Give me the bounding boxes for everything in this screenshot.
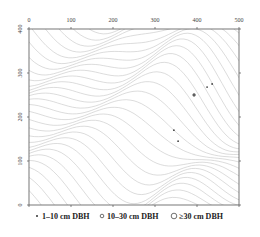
legend: 1–10 cm DBH10–30 cm DBH≥30 cm DBH [36, 212, 224, 221]
legend-label: 1–10 cm DBH [42, 212, 90, 221]
contour-line [19, 234, 249, 237]
contour-line [19, 107, 249, 165]
contour-line [19, 0, 249, 27]
x-tick-label: 100 [67, 17, 76, 23]
data-point [173, 129, 175, 131]
contour-lines [19, 0, 249, 237]
y-tick-label: 0 [17, 204, 23, 207]
contour-line [19, 144, 249, 207]
contour-line [19, 33, 249, 109]
x-tick-label: 500 [235, 17, 244, 23]
x-tick-label: 400 [193, 17, 202, 23]
contour-line [19, 62, 249, 145]
data-point [206, 86, 208, 88]
contour-line [19, 82, 249, 152]
contour-line [19, 228, 249, 237]
legend-label: ≥30 cm DBH [179, 212, 224, 221]
data-point [177, 140, 179, 142]
x-tick-label: 0 [28, 17, 31, 23]
legend-symbol [36, 215, 38, 217]
y-tick-label: 400 [17, 25, 23, 34]
data-point [193, 94, 196, 97]
contour-line [19, 0, 249, 59]
contour-line [19, 155, 249, 220]
contour-line [19, 138, 249, 203]
legend-symbol [171, 213, 177, 219]
contour-line [19, 182, 249, 237]
x-tick-label: 200 [109, 17, 118, 23]
y-tick-label: 300 [17, 69, 23, 78]
chart: 0100200300400500 0100200300400 1–10 cm D… [0, 0, 260, 237]
y-tick-label: 200 [17, 113, 23, 122]
contour-line [19, 0, 249, 46]
contour-line [19, 0, 249, 40]
legend-label: 10–30 cm DBH [107, 212, 159, 221]
contour-line [19, 149, 249, 212]
data-point [211, 83, 213, 85]
y-tick-label: 100 [17, 157, 23, 166]
legend-symbol [100, 214, 104, 218]
x-tick-label: 300 [151, 17, 160, 23]
